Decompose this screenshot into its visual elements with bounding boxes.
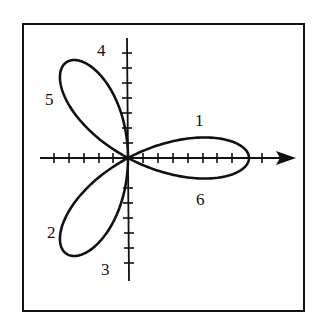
point-label-2: 2: [47, 223, 56, 242]
point-label-5: 5: [45, 90, 54, 109]
point-label-4: 4: [97, 41, 106, 60]
point-label-6: 6: [196, 190, 205, 209]
point-label-3: 3: [101, 260, 110, 279]
x-axis: [40, 151, 296, 165]
frame: [23, 24, 304, 311]
rose-curve-diagram: 1 2 3 4 5 6: [0, 0, 317, 314]
point-label-1: 1: [195, 111, 204, 130]
